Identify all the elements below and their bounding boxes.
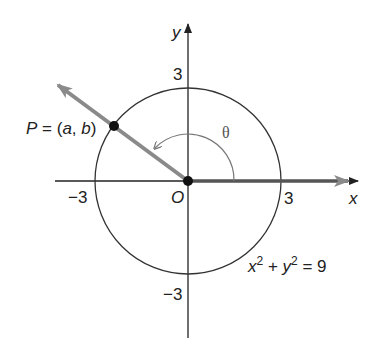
y-axis-label: y: [171, 23, 182, 42]
unit-circle-diagram: y x 3 −3 3 −3 O θ P = (a, b) x2 + y2 = 9: [0, 0, 383, 350]
tick-y-neg: −3: [163, 285, 182, 304]
tick-x-neg: −3: [68, 188, 87, 207]
origin-point: [183, 176, 193, 186]
point-label: P = (a, b): [26, 119, 96, 138]
point-p: [109, 121, 119, 131]
origin-label: O: [171, 188, 184, 207]
theta-label: θ: [222, 124, 230, 141]
tick-y-pos: 3: [173, 65, 182, 84]
angle-arc: [155, 134, 234, 181]
tick-x-pos: 3: [284, 189, 293, 208]
circle-equation: x2 + y2 = 9: [247, 254, 327, 276]
x-axis-label: x: [348, 189, 358, 208]
